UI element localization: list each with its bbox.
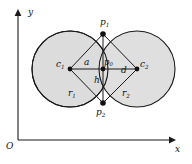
label-p1-sub: 1 (106, 22, 110, 28)
label-r1: r1 (68, 89, 76, 98)
label-p2-sub: 2 (102, 112, 106, 118)
label-r1-sub: 1 (72, 93, 76, 99)
label-p2: p2 (96, 108, 105, 117)
x-axis-arrowhead (169, 137, 176, 144)
dot-p1 (100, 31, 106, 37)
label-p2-base: p (96, 107, 102, 117)
label-r2: r2 (122, 89, 130, 98)
label-a: a (84, 58, 89, 67)
figure-container: y O x c1 c2 p1 p2 p0 a d h r1 r2 (0, 0, 192, 164)
label-c1-sub: 1 (61, 64, 65, 70)
label-c2-sub: 2 (145, 64, 149, 70)
dot-p2 (100, 100, 106, 106)
dot-c1 (68, 67, 73, 72)
label-p0-sub: 0 (109, 61, 112, 67)
dot-p0 (101, 67, 106, 72)
dot-c2 (135, 67, 140, 72)
label-c2: c2 (140, 60, 149, 69)
label-d: d (121, 66, 127, 75)
axis-label-origin: O (6, 142, 13, 151)
label-h: h (94, 76, 100, 85)
label-p1-base: p (100, 17, 106, 27)
axis-label-y: y (28, 8, 33, 17)
y-axis-arrowhead (15, 9, 22, 16)
label-c1: c1 (56, 60, 65, 69)
axis-label-x: x (175, 145, 180, 154)
label-p1: p1 (100, 18, 109, 27)
label-r2-sub: 2 (126, 93, 130, 99)
label-p0: p0 (104, 58, 113, 67)
